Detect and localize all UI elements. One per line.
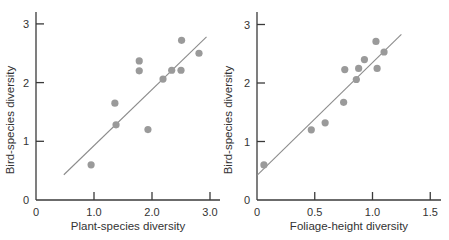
- x-tick-label: 0: [254, 206, 260, 218]
- regression-line: [257, 34, 401, 175]
- data-point: [355, 65, 362, 72]
- data-point: [195, 50, 202, 57]
- data-point: [380, 48, 387, 55]
- x-tick-label: 0.5: [307, 206, 322, 218]
- data-point: [361, 56, 368, 63]
- data-point: [144, 126, 151, 133]
- data-point: [88, 161, 95, 168]
- y-tick-label: 3: [244, 19, 250, 31]
- x-tick-label: 2.0: [144, 206, 159, 218]
- x-tick-label: 3.0: [202, 206, 217, 218]
- data-point: [372, 38, 379, 45]
- x-axis-label: Foliage-height diversity: [290, 220, 409, 232]
- y-axis-label: Bird-species diversity: [222, 65, 234, 174]
- data-point: [111, 100, 118, 107]
- data-point: [260, 161, 267, 168]
- x-tick-label: 1.0: [86, 206, 101, 218]
- data-point: [340, 99, 347, 106]
- data-point: [353, 76, 360, 83]
- data-point: [322, 119, 329, 126]
- y-tick-label: 2: [23, 77, 29, 89]
- x-tick-label: 0: [33, 206, 39, 218]
- y-tick-label: 1: [244, 136, 250, 148]
- x-tick-label: 1.5: [423, 206, 438, 218]
- x-axis-label: Plant-species diversity: [71, 220, 186, 232]
- chart-plant-species: 012301.02.03.0Plant-species diversityBir…: [4, 12, 220, 232]
- regression-line: [64, 37, 207, 175]
- data-point: [136, 67, 143, 74]
- data-point: [112, 121, 119, 128]
- y-tick-label: 0: [244, 194, 250, 206]
- data-point: [178, 37, 185, 44]
- y-tick-label: 2: [244, 77, 250, 89]
- data-point: [341, 66, 348, 73]
- data-point: [177, 67, 184, 74]
- x-tick-label: 1.0: [365, 206, 380, 218]
- figure: 012301.02.03.0Plant-species diversityBir…: [0, 0, 449, 240]
- data-point: [374, 65, 381, 72]
- data-point: [159, 75, 166, 82]
- y-tick-label: 3: [23, 18, 29, 30]
- y-axis-label: Bird-species diversity: [4, 65, 16, 174]
- chart-foliage-height: 012300.51.01.5Foliage-height diversityBi…: [222, 12, 441, 232]
- data-point: [308, 126, 315, 133]
- data-point: [136, 57, 143, 64]
- data-point: [168, 67, 175, 74]
- y-tick-label: 1: [23, 135, 29, 147]
- y-tick-label: 0: [23, 194, 29, 206]
